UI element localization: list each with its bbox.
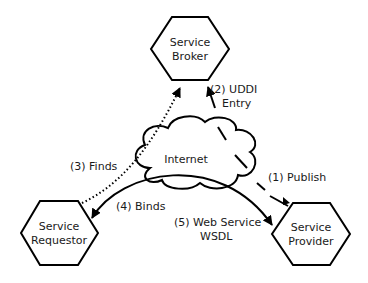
requestor-label-line2: Requestor (31, 234, 87, 247)
service-broker-node: Service Broker (151, 17, 229, 80)
publish-label: (1) Publish (268, 171, 326, 184)
requestor-label-line1: Service (39, 220, 80, 233)
uddi-label-line1: (2) UDDI (210, 83, 257, 96)
broker-label-line1: Service (170, 36, 211, 49)
service-provider-node: Service Provider (272, 203, 350, 265)
wsdl-label-line2: WSDL (200, 230, 233, 243)
finds-label: (3) Finds (70, 160, 118, 173)
internet-label: Internet (164, 153, 208, 166)
broker-label-line2: Broker (172, 50, 208, 63)
uddi-label-line2: Entry (222, 97, 252, 110)
provider-label-line2: Provider (288, 235, 334, 248)
finds-edge: (3) Finds (70, 88, 180, 203)
service-requestor-node: Service Requestor (21, 201, 98, 265)
wsdl-label-line1: (5) Web Service (174, 216, 261, 229)
provider-label-line1: Service (291, 221, 332, 234)
soa-diagram: Internet Service Broker Service Requesto… (0, 0, 368, 283)
binds-label: (4) Binds (116, 200, 166, 213)
